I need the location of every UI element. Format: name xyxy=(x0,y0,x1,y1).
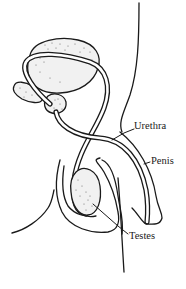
anatomy-diagram: Urethra Penis Testes xyxy=(0,0,186,289)
label-urethra: Urethra xyxy=(134,121,166,132)
leg-line xyxy=(118,178,124,272)
testes-leader xyxy=(93,204,128,234)
bladder xyxy=(28,39,100,94)
label-penis: Penis xyxy=(151,156,174,167)
diagram-canvas xyxy=(0,0,186,289)
body-contour xyxy=(121,3,139,132)
label-testes: Testes xyxy=(129,231,155,242)
thigh-contour xyxy=(12,190,54,233)
